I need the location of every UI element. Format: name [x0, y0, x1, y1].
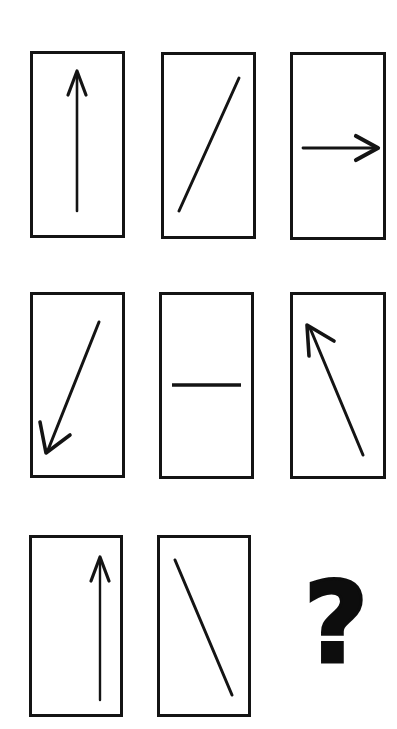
arrow-right-icon [290, 52, 386, 240]
matrix-cell-4[interactable] [30, 292, 125, 478]
matrix-cell-2[interactable] [161, 52, 256, 239]
matrix-puzzle: ? [0, 0, 397, 729]
matrix-cell-6[interactable] [290, 292, 386, 479]
question-mark-glyph: ? [304, 567, 369, 679]
arrow-up-left-icon [290, 292, 386, 479]
line-up-right-icon [161, 52, 256, 239]
matrix-cell-8[interactable] [157, 535, 251, 717]
matrix-cell-7[interactable] [29, 535, 123, 717]
answer-slot-question-mark[interactable]: ? [296, 565, 376, 680]
line-down-right-icon [157, 535, 251, 717]
line-horizontal-icon [159, 292, 254, 479]
matrix-cell-1[interactable] [30, 51, 125, 238]
matrix-cell-3[interactable] [290, 52, 386, 240]
arrow-down-left-icon [30, 292, 125, 478]
matrix-cell-5[interactable] [159, 292, 254, 479]
arrow-up-icon [29, 535, 123, 717]
arrow-up-icon [30, 51, 125, 238]
